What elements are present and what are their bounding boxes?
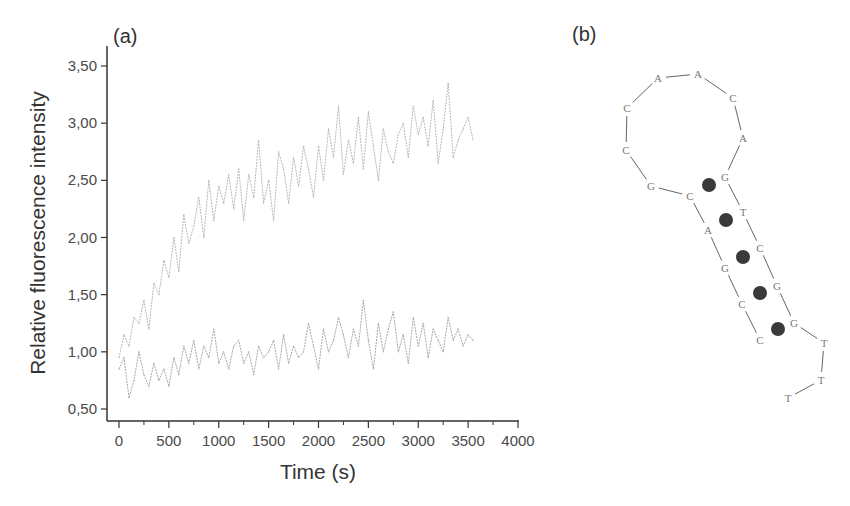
backbone-link bbox=[729, 184, 740, 205]
data-point-top-trace bbox=[283, 168, 284, 169]
backbone-link bbox=[735, 106, 741, 130]
data-point-bottom-trace bbox=[178, 374, 179, 375]
data-point-bottom-trace bbox=[398, 351, 399, 352]
data-point-top-trace bbox=[333, 157, 334, 158]
data-point-bottom-trace bbox=[288, 363, 289, 364]
backbone-link bbox=[780, 293, 790, 315]
data-point-top-trace bbox=[373, 145, 374, 146]
backbone-link bbox=[633, 84, 653, 103]
backbone-link bbox=[763, 255, 773, 278]
data-point-bottom-trace bbox=[138, 351, 139, 352]
data-point-top-trace bbox=[328, 128, 329, 129]
data-point-top-trace bbox=[358, 117, 359, 118]
data-point-top-trace bbox=[323, 180, 324, 181]
data-point-bottom-trace bbox=[238, 340, 239, 341]
x-tick-label: 500 bbox=[156, 432, 181, 449]
panel-label-a: (a) bbox=[113, 25, 137, 47]
data-point-bottom-trace bbox=[328, 351, 329, 352]
data-point-top-trace bbox=[378, 180, 379, 181]
nucleotide: C bbox=[756, 242, 763, 254]
y-axis-title: Relative fluorescence intensity bbox=[26, 91, 49, 375]
data-point-top-trace bbox=[423, 117, 424, 118]
data-point-bottom-trace bbox=[188, 363, 189, 364]
data-point-bottom-trace bbox=[283, 334, 284, 335]
data-point-top-trace bbox=[368, 111, 369, 112]
series-layer bbox=[118, 83, 473, 399]
x-tick-label: 1000 bbox=[202, 432, 235, 449]
nucleotide: C bbox=[756, 334, 763, 346]
data-point-bottom-trace bbox=[423, 323, 424, 324]
data-point-top-trace bbox=[348, 140, 349, 141]
hairpin-diagram: CCGACGCCAACAGTCGGTTT bbox=[622, 68, 827, 404]
data-point-bottom-trace bbox=[228, 368, 229, 369]
data-point-top-trace bbox=[188, 243, 189, 244]
backbone-link bbox=[746, 219, 756, 241]
y-tick-label: 1,00 bbox=[68, 343, 97, 360]
figure: (a) (b) 0,501,001,502,002,503,003,50 050… bbox=[0, 0, 850, 506]
backbone-link bbox=[666, 75, 690, 77]
data-point-bottom-trace bbox=[403, 334, 404, 335]
data-point-top-trace bbox=[168, 277, 169, 278]
nucleotide: T bbox=[821, 337, 828, 349]
data-point-top-trace bbox=[433, 100, 434, 101]
data-point-top-trace bbox=[343, 174, 344, 175]
data-point-bottom-trace bbox=[428, 357, 429, 358]
data-point-top-trace bbox=[128, 346, 129, 347]
data-point-bottom-trace bbox=[248, 351, 249, 352]
nucleotide: G bbox=[721, 171, 729, 183]
data-point-bottom-trace bbox=[313, 346, 314, 347]
backbone-link bbox=[626, 116, 627, 142]
x-tick-label: 4000 bbox=[501, 432, 534, 449]
data-point-bottom-trace bbox=[218, 363, 219, 364]
nucleotide: T bbox=[740, 206, 747, 218]
data-point-bottom-trace bbox=[348, 357, 349, 358]
data-point-top-trace bbox=[443, 128, 444, 129]
data-point-top-trace bbox=[388, 151, 389, 152]
data-point-top-trace bbox=[223, 203, 224, 204]
data-point-top-trace bbox=[403, 123, 404, 124]
nucleotide: T bbox=[785, 392, 792, 404]
y-tick-label: 2,50 bbox=[68, 171, 97, 188]
x-tick-label: 1500 bbox=[252, 432, 285, 449]
backbone-link bbox=[728, 145, 739, 169]
nucleotide: A bbox=[739, 132, 747, 144]
data-point-bottom-trace bbox=[308, 323, 309, 324]
series-line-bottom-trace bbox=[119, 300, 473, 397]
base-pair-dot bbox=[719, 213, 733, 227]
data-point-top-trace bbox=[363, 168, 364, 169]
data-point-bottom-trace bbox=[453, 340, 454, 341]
data-point-bottom-trace bbox=[468, 334, 469, 335]
data-point-bottom-trace bbox=[203, 346, 204, 347]
nucleotide: G bbox=[647, 180, 655, 192]
data-point-bottom-trace bbox=[343, 334, 344, 335]
data-point-bottom-trace bbox=[333, 340, 334, 341]
data-point-bottom-trace bbox=[168, 386, 169, 387]
data-point-bottom-trace bbox=[183, 346, 184, 347]
y-tick-label: 0,50 bbox=[68, 400, 97, 417]
data-point-top-trace bbox=[298, 185, 299, 186]
nucleotide: C bbox=[729, 92, 736, 104]
data-point-top-trace bbox=[143, 300, 144, 301]
data-point-bottom-trace bbox=[378, 323, 379, 324]
nucleotide: A bbox=[654, 72, 662, 84]
data-point-bottom-trace bbox=[443, 351, 444, 352]
data-point-bottom-trace bbox=[373, 368, 374, 369]
data-point-bottom-trace bbox=[363, 300, 364, 301]
data-point-top-trace bbox=[288, 203, 289, 204]
data-point-bottom-trace bbox=[338, 317, 339, 318]
data-point-top-trace bbox=[183, 214, 184, 215]
panel-label-b: (b) bbox=[572, 23, 596, 45]
data-point-top-trace bbox=[313, 197, 314, 198]
chart-panel-a: 0,501,001,502,002,503,003,50 05001000150… bbox=[26, 46, 535, 483]
data-point-top-trace bbox=[338, 105, 339, 106]
data-point-top-trace bbox=[238, 168, 239, 169]
y-tick-label: 2,00 bbox=[68, 229, 97, 246]
data-point-bottom-trace bbox=[258, 346, 259, 347]
data-point-top-trace bbox=[463, 128, 464, 129]
backbone-link bbox=[694, 203, 705, 223]
data-point-top-trace bbox=[278, 151, 279, 152]
y-tick-label: 3,50 bbox=[68, 57, 97, 74]
data-point-top-trace bbox=[123, 334, 124, 335]
backbone-link bbox=[795, 384, 814, 394]
backbone-link bbox=[801, 327, 818, 338]
